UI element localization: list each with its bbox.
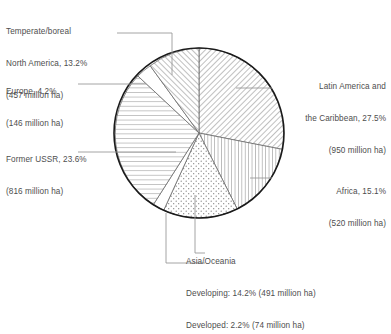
slice-label-asia-oceania-line3: Developed: 2.2% (74 million ha) <box>186 321 391 332</box>
slice-label-europe-line1: Europe, 4.2% <box>6 87 156 98</box>
slice-label-africa-line1: Africa, 15.1% <box>240 187 386 198</box>
slice-label-africa-line2: (520 million ha) <box>240 219 386 230</box>
slice-label-europe-line2: (146 million ha) <box>6 119 156 130</box>
slice-label-latin-america-line2: the Caribbean, 27.5% <box>240 114 386 125</box>
slice-label-latin-america-line1: Latin America and <box>240 82 386 93</box>
slice-label-north-america-line1: Temperate/boreal <box>6 27 156 38</box>
slice-label-asia-oceania: Asia/Oceania Developing: 14.2% (491 mill… <box>186 236 391 334</box>
slice-label-latin-america-line3: (950 million ha) <box>240 146 386 157</box>
slice-label-former-ussr: Former USSR, 23.6% (816 million ha) <box>6 134 156 219</box>
slice-label-former-ussr-line2: (816 million ha) <box>6 187 156 198</box>
slice-label-former-ussr-line1: Former USSR, 23.6% <box>6 155 156 166</box>
slice-label-latin-america: Latin America and the Caribbean, 27.5% (… <box>240 61 386 178</box>
slice-label-asia-oceania-line1: Asia/Oceania <box>186 257 391 268</box>
slice-label-asia-oceania-line2: Developing: 14.2% (491 million ha) <box>186 289 391 300</box>
